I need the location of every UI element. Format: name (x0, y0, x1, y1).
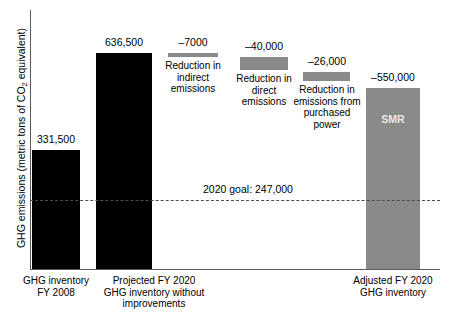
caption-line-3: purchased (288, 107, 366, 119)
caption-line-2: emissions from (288, 96, 366, 108)
caption-line-2: indirect (158, 72, 228, 84)
caption-line-1: Reduction in (229, 73, 299, 85)
x-axis-line (30, 269, 440, 270)
axis-label-line-2: GHG inventory without (94, 287, 214, 299)
bar-value-ghg-inventory-fy2008: 331,500 (32, 133, 80, 145)
caption-line-1: Reduction in (158, 60, 228, 72)
bar-caption-reduction-indirect: Reduction in indirect emissions (158, 60, 228, 95)
y-axis-label-suffix: equivalent) (15, 28, 27, 82)
axis-label-line-1: Projected FY 2020 (94, 275, 214, 287)
bar-caption-reduction-purchased-power: Reduction in emissions from purchased po… (288, 84, 366, 130)
y-axis-label-subscript: 2 (20, 82, 29, 86)
bar-value-projected-fy2020: 636,500 (92, 36, 156, 48)
bar-value-adjusted-fy2020: –550,000 (362, 71, 424, 83)
axis-label-line-3: improvements (94, 298, 214, 310)
ghg-waterfall-chart: GHG emissions (metric tons of CO2 equiva… (0, 0, 451, 322)
bar-value-reduction-direct: –40,000 (238, 40, 290, 52)
y-axis-label-prefix: GHG emissions (metric tons of CO (15, 86, 27, 248)
axis-label-line-1: GHG inventory (18, 275, 94, 287)
goal-reference-line (30, 200, 440, 201)
bar-reduction-purchased-power[interactable] (303, 72, 350, 81)
bar-inner-label-smr: SMR (366, 113, 420, 125)
axis-label-line-2: GHG inventory (341, 287, 445, 299)
bar-reduction-indirect[interactable] (168, 53, 218, 57)
bar-projected-fy2020[interactable] (96, 53, 152, 269)
axis-label-line-1: Adjusted FY 2020 (341, 275, 445, 287)
bar-value-reduction-indirect: –7000 (168, 36, 218, 48)
bar-reduction-direct[interactable] (240, 57, 288, 70)
x-axis-label-adjusted-fy2020: Adjusted FY 2020 GHG inventory (341, 275, 445, 298)
x-axis-label-ghg-inventory-fy2008: GHG inventory FY 2008 (18, 275, 94, 298)
bar-ghg-inventory-fy2008[interactable] (32, 150, 80, 269)
axis-label-line-2: FY 2008 (18, 287, 94, 299)
caption-line-1: Reduction in (288, 84, 366, 96)
y-axis-label: GHG emissions (metric tons of CO2 equiva… (15, 8, 29, 268)
bar-adjusted-fy2020-smr[interactable]: SMR (366, 88, 420, 269)
caption-line-3: emissions (158, 83, 228, 95)
bar-value-reduction-purchased-power: –26,000 (300, 55, 354, 67)
x-axis-label-projected-fy2020: Projected FY 2020 GHG inventory without … (94, 275, 214, 310)
caption-line-4: power (288, 119, 366, 131)
y-axis-line (30, 10, 31, 269)
goal-line-label: 2020 goal: 247,000 (203, 183, 293, 195)
